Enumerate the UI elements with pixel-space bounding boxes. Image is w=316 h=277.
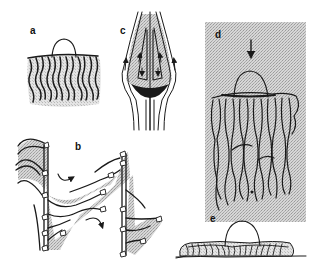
panel-label-c: c (120, 25, 126, 36)
panel-label-d: d (215, 29, 221, 40)
panel-b-arrow-upper (58, 174, 72, 180)
panel-label-b: b (75, 141, 81, 152)
panel-label-e: e (210, 213, 216, 224)
panel-d: d (205, 22, 306, 222)
panel-e-base (180, 242, 294, 257)
panel-a: a (27, 25, 100, 107)
panel-a-bundle (27, 54, 100, 107)
panel-d-dot (251, 191, 254, 194)
figure-canvas: a c (0, 0, 316, 277)
panel-c-bulb (126, 14, 172, 95)
panel-b: b (16, 139, 186, 258)
panel-label-a: a (30, 25, 36, 36)
panel-c: c (120, 12, 176, 130)
panel-b-arrow-lower (86, 218, 102, 226)
